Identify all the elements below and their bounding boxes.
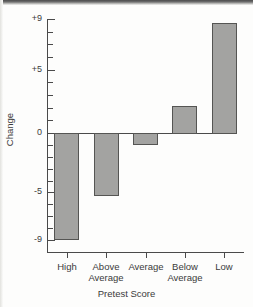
y-tick-1 (48, 120, 53, 121)
y-tick-label-5: +5 (2, 65, 42, 74)
bar-chart-figure: +9+50-5-9 HighAbove AverageAverageBelow … (0, 0, 253, 307)
bar-average (133, 133, 158, 145)
y-tick-2 (48, 108, 53, 109)
y-tick-8 (48, 32, 53, 33)
y-tick-4 (48, 82, 53, 83)
x-tick-3 (185, 253, 186, 258)
y-tick--6 (48, 204, 53, 205)
y-tick-label-9: +9 (2, 14, 42, 23)
bar-below-average (172, 106, 197, 134)
y-tick--1 (48, 145, 53, 146)
bar-above-average (94, 133, 119, 196)
y-tick-5 (48, 70, 55, 71)
x-tick-1 (106, 253, 107, 258)
y-tick-label--9: -9 (2, 235, 42, 244)
y-tick-label--5: -5 (2, 187, 42, 196)
x-tick-4 (224, 253, 225, 258)
y-tick-3 (48, 95, 53, 96)
y-tick-9 (48, 19, 55, 20)
y-tick--9 (48, 240, 55, 241)
y-tick--3 (48, 169, 53, 170)
y-tick--8 (48, 228, 53, 229)
y-tick--7 (48, 216, 53, 217)
y-tick--2 (48, 157, 53, 158)
x-tick-label-low: Low (196, 261, 252, 272)
bar-high (54, 133, 79, 240)
y-tick-7 (48, 44, 53, 45)
y-axis-line (47, 19, 48, 253)
bar-low (212, 23, 237, 134)
x-axis-title: Pretest Score (0, 288, 253, 299)
y-tick--4 (48, 181, 53, 182)
x-tick-2 (146, 253, 147, 258)
y-tick-6 (48, 57, 53, 58)
x-tick-0 (67, 253, 68, 258)
y-axis-title: Change (4, 100, 15, 160)
scan-artifact-top-band (0, 0, 253, 5)
